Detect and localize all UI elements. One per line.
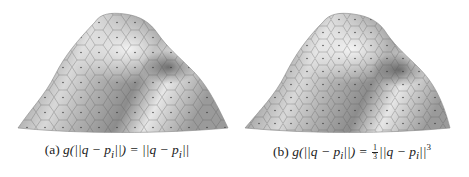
caption-a: (a) g(||q − pi||) = ||q − pi|| bbox=[0, 142, 234, 160]
caption-formula-end: || bbox=[182, 142, 189, 157]
figure-panel-b: (b) g(||q − pi||) = 13||q − pi||3 bbox=[235, 0, 469, 177]
caption-label: (a) bbox=[45, 142, 60, 157]
caption-formula-mid: ||) = bbox=[343, 144, 371, 159]
caption-formula-lhs: g(||q − p bbox=[292, 144, 340, 159]
fraction-one-third: 13 bbox=[372, 144, 378, 161]
voronoi-surface-image-a bbox=[0, 0, 234, 140]
caption-formula-lhs: g(||q − p bbox=[63, 142, 111, 157]
caption-b: (b) g(||q − pi||) = 13||q − pi||3 bbox=[235, 142, 469, 161]
exponent: 3 bbox=[426, 142, 431, 152]
voronoi-surface-image-b bbox=[235, 0, 469, 140]
caption-formula-rest: ||q − p bbox=[379, 144, 416, 159]
figure-panel-a: (a) g(||q − pi||) = ||q − pi|| bbox=[0, 0, 234, 177]
caption-formula-mid: ||) = ||q − p bbox=[114, 142, 179, 157]
caption-label: (b) bbox=[273, 144, 289, 159]
